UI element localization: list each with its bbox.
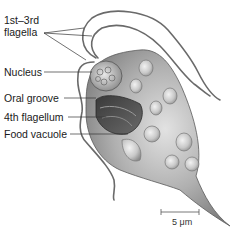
label-flagella-line2: flagella <box>4 26 39 38</box>
label-4th-flagellum: 4th flagellum <box>4 111 64 123</box>
scale-bar <box>161 209 199 215</box>
label-food-vacuole: Food vacuole <box>4 128 67 140</box>
protozoan-diagram: 1st–3rd flagella Nucleus Oral groove 4th… <box>0 0 239 232</box>
label-flagella-1-3: 1st–3rd flagella <box>4 14 39 38</box>
label-flagella-line1: 1st–3rd <box>4 14 39 26</box>
label-oral-groove: Oral groove <box>4 92 59 104</box>
nucleus-structure <box>90 61 122 91</box>
scale-bar-label: 5 μm <box>172 217 192 227</box>
label-nucleus: Nucleus <box>4 66 42 78</box>
